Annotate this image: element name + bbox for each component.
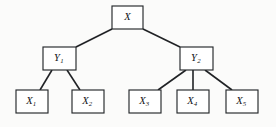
- node-subscript-y2: 2: [197, 57, 201, 64]
- tree-node-y1[interactable]: Y1: [43, 47, 76, 70]
- tree-node-x5[interactable]: X5: [226, 90, 258, 113]
- tree-node-x[interactable]: X: [112, 6, 143, 29]
- node-subscript-x5: 5: [243, 100, 247, 107]
- tree-edge-y2-x5: [205, 70, 232, 90]
- node-subscript-x2: 2: [89, 100, 93, 107]
- tree-node-y2[interactable]: Y2: [180, 47, 213, 70]
- node-subscript-x4: 4: [194, 100, 198, 107]
- tree-edge-x-y2: [143, 29, 180, 47]
- node-subscript-y1: 1: [60, 57, 63, 64]
- tree-edge-y2-x3: [158, 70, 186, 90]
- tree-diagram-svg: XY1Y2X1X2X3X4X5: [0, 0, 276, 127]
- tree-node-x3[interactable]: X3: [129, 90, 161, 113]
- node-subscript-x3: 3: [145, 100, 150, 107]
- tree-diagram-canvas: XY1Y2X1X2X3X4X5: [0, 0, 276, 127]
- node-layer: XY1Y2X1X2X3X4X5: [16, 6, 258, 113]
- tree-edge-x-y1: [76, 29, 112, 47]
- tree-node-x1[interactable]: X1: [16, 90, 48, 113]
- tree-edge-y1-x2: [67, 70, 80, 90]
- node-subscript-x1: 1: [33, 100, 36, 107]
- tree-edge-y1-x1: [40, 70, 52, 90]
- tree-node-x2[interactable]: X2: [72, 90, 104, 113]
- node-label-x: X: [123, 11, 131, 22]
- tree-node-x4[interactable]: X4: [177, 90, 209, 113]
